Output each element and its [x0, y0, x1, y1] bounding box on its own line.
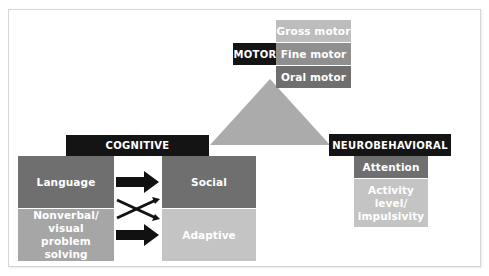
oral-motor-box: Oral motor [276, 66, 351, 88]
nonverbal-box: Nonverbal/ visual problem solving [18, 209, 114, 261]
adaptive-box: Adaptive [162, 209, 256, 261]
activity-level-box: Activity level/ impulsivity [354, 179, 428, 227]
fine-motor-box: Fine motor [276, 43, 351, 65]
arrow-right-icon [116, 171, 159, 193]
motor-header: MOTOR [233, 43, 277, 65]
gross-motor-box: Gross motor [276, 20, 351, 42]
arrows-icon [114, 170, 162, 250]
triangle-connector [210, 79, 330, 145]
neurobehavioral-header: NEUROBEHAVIORAL [329, 134, 451, 156]
cross-arrows-icon [117, 197, 160, 221]
social-box: Social [162, 156, 256, 208]
arrow-right-icon [116, 224, 159, 246]
cognitive-header: COGNITIVE [66, 135, 209, 156]
language-box: Language [18, 156, 114, 208]
attention-box: Attention [354, 156, 428, 178]
